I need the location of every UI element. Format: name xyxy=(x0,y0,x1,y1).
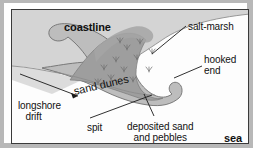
label-longshore-drift: longshore drift xyxy=(18,100,61,122)
label-salt-marsh: salt-marsh xyxy=(188,21,234,32)
label-hooked-end-line2: end xyxy=(204,65,236,76)
diagram-frame: coastline salt-marsh hooked end longshor… xyxy=(4,3,247,143)
label-spit: spit xyxy=(87,122,102,133)
diagram-canvas: coastline salt-marsh hooked end longshor… xyxy=(11,9,249,144)
label-coastline: coastline xyxy=(64,22,111,33)
label-deposited-sand-line2: and pebbles xyxy=(127,132,193,143)
label-hooked-end: hooked end xyxy=(204,54,236,76)
label-longshore-drift-line1: longshore xyxy=(18,100,61,111)
label-deposited-sand-line1: deposited sand xyxy=(127,121,193,132)
label-sea: sea xyxy=(224,133,242,144)
diagram-page: coastline salt-marsh hooked end longshor… xyxy=(0,0,253,148)
label-hooked-end-line1: hooked xyxy=(204,54,236,65)
label-deposited-sand: deposited sand and pebbles xyxy=(127,121,193,143)
label-longshore-drift-line2: drift xyxy=(18,111,61,122)
